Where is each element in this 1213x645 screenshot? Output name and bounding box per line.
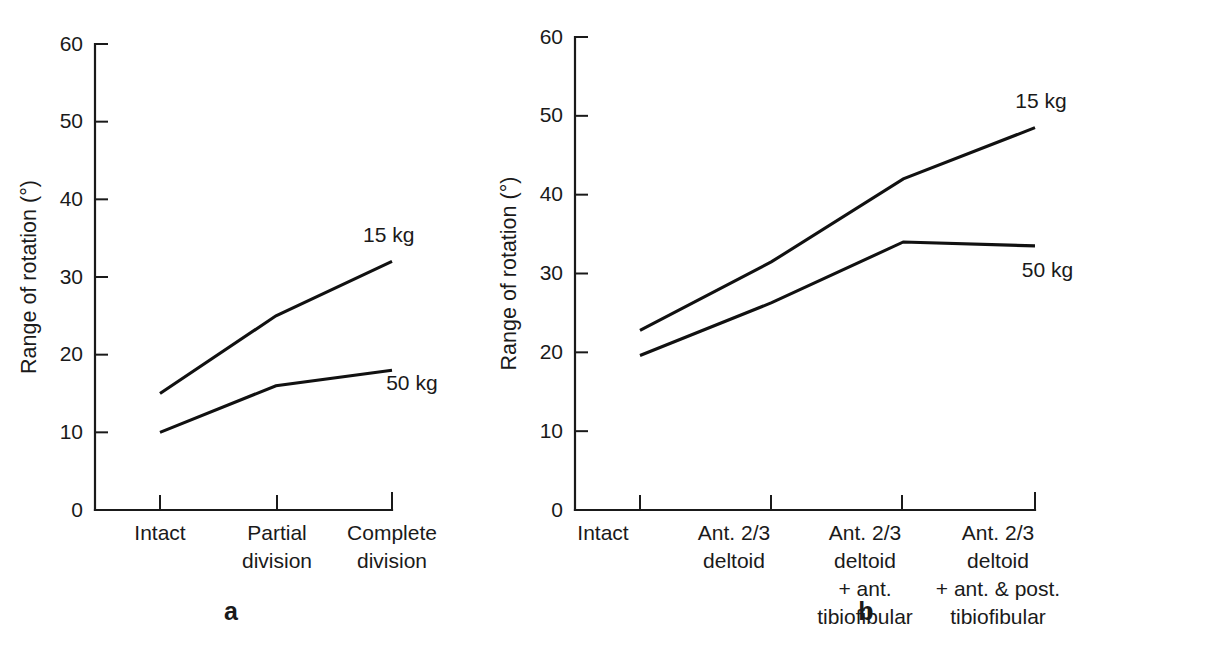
- figure-container: 0102030405060IntactPartialdivisionComple…: [0, 0, 1213, 645]
- panel-a-letter: a: [224, 597, 239, 625]
- panel-letters-layer: a b: [0, 0, 1213, 645]
- panel-b-letter: b: [858, 597, 873, 625]
